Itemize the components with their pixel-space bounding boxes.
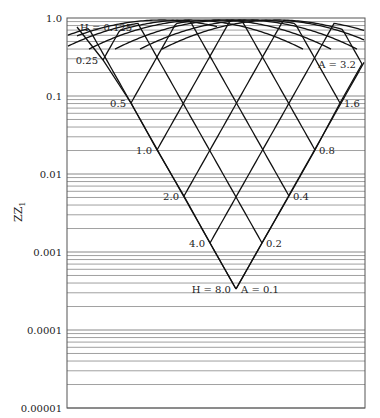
y-tick-label: 0.00001 — [21, 403, 62, 414]
h-curve-label: H = 8.0 — [192, 284, 231, 295]
a-curve-label: A = 0.1 — [240, 284, 279, 295]
a-curve-label: 0.4 — [293, 191, 309, 202]
h-curve-label: 2.0 — [163, 191, 179, 202]
plot-frame — [67, 18, 365, 408]
y-tick-label: 0.1 — [46, 91, 62, 102]
a-curve-label: 0.8 — [319, 145, 335, 156]
nomogram-chart: 1.00.10.010.0010.00010.00001 H = 0.1250.… — [0, 0, 380, 418]
h-curve-label: 4.0 — [189, 238, 205, 249]
a-curve-label: 0.2 — [266, 238, 282, 249]
y-tick-labels: 1.00.10.010.0010.00010.00001 — [21, 13, 62, 414]
y-axis-label: ZZ1 — [12, 202, 27, 222]
log-gridlines — [67, 22, 365, 408]
h-curve-label: 0.25 — [76, 55, 98, 66]
y-tick-label: 1.0 — [46, 13, 62, 24]
h-curve-label: 0.5 — [110, 98, 126, 109]
y-tick-label: 0.0001 — [27, 325, 62, 336]
a-curve-label: A = 3.2 — [317, 59, 356, 70]
y-tick-label: 0.001 — [33, 247, 62, 258]
h-curve-label: 1.0 — [136, 145, 152, 156]
curve-labels: H = 0.1250.250.51.02.04.0H = 8.0A = 3.21… — [76, 22, 360, 295]
h-curve-label: H = 0.125 — [80, 22, 132, 33]
a-curve-label: 1.6 — [344, 98, 360, 109]
y-tick-label: 0.01 — [40, 169, 62, 180]
